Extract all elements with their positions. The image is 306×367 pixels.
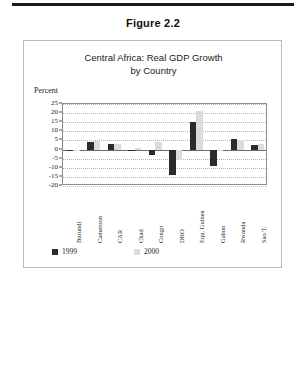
- bar-1999-gabon: [210, 150, 217, 166]
- x-axis-label-burundi: Burundi: [75, 222, 82, 243]
- bar-group: [125, 104, 146, 184]
- y-axis-tick-label: 10: [51, 126, 58, 134]
- bar-2000-burundi: [73, 150, 80, 151]
- top-divider-rule: [12, 3, 294, 6]
- y-axis-tick-label: -5: [52, 154, 58, 162]
- bar-group: [104, 104, 125, 184]
- chart-container: Central Africa: Real GDP Growth by Count…: [23, 40, 282, 268]
- y-axis-tick-mark: [59, 166, 62, 167]
- x-axis-label-congo: Congo: [157, 226, 164, 243]
- legend-swatch-icon: [52, 249, 58, 255]
- bar-2000-chad: [135, 148, 142, 150]
- x-axis-label-dro: DRO: [178, 229, 185, 243]
- x-axis-label-sao-t: Sao T.: [260, 227, 267, 243]
- legend-swatch-icon: [134, 249, 140, 255]
- bar-2000-sao-t: [258, 144, 265, 149]
- bar-2000-dro: [176, 150, 183, 161]
- bar-2000-rwanda: [237, 140, 244, 150]
- y-axis-tick-label: 5: [55, 135, 59, 143]
- y-axis-tick-label: -10: [49, 163, 58, 171]
- bar-2000-cameroon: [94, 141, 101, 149]
- y-axis-tick-label: 25: [51, 99, 58, 107]
- figure-caption: Figure 2.2: [0, 17, 306, 29]
- y-axis-tick-mark: [59, 121, 62, 122]
- x-axis-category-labels: BurundiCameroonCARChadCongoDROEqu. Guine…: [62, 187, 267, 249]
- x-axis-label-chad: Chad: [137, 229, 144, 243]
- bar-group: [84, 104, 105, 184]
- y-axis-tick-mark: [59, 148, 62, 149]
- y-axis-tick-mark: [59, 185, 62, 186]
- bar-1999-congo: [149, 150, 156, 155]
- legend-item-2000[interactable]: 2000: [134, 247, 159, 256]
- y-axis-tick-label: 0: [55, 145, 59, 153]
- bar-group: [63, 104, 84, 184]
- x-axis-label-equ-guinea: Equ. Guinea: [198, 211, 205, 244]
- y-axis-tick-label: 15: [51, 117, 58, 125]
- bar-1999-chad: [128, 150, 135, 151]
- bar-group: [186, 104, 207, 184]
- plot-area: [62, 103, 267, 185]
- y-axis-tick-mark: [59, 130, 62, 131]
- y-axis-tick-label: -20: [49, 181, 58, 189]
- bar-group: [166, 104, 187, 184]
- bar-2000-equ-guinea: [196, 111, 203, 149]
- x-axis-label-cameroon: Cameroon: [96, 216, 103, 243]
- bar-group: [207, 104, 228, 184]
- chart-title: Central Africa: Real GDP Growth by Count…: [34, 51, 273, 77]
- y-axis-unit-label: Percent: [34, 86, 58, 95]
- y-axis-tick-label: -15: [49, 172, 58, 180]
- y-axis-tick-mark: [59, 139, 62, 140]
- bar-2000-car: [114, 144, 121, 149]
- legend-label: 1999: [62, 247, 77, 256]
- bar-group: [145, 104, 166, 184]
- y-axis-tick-mark: [59, 175, 62, 176]
- chart-legend: 19992000: [52, 247, 252, 261]
- bar-group: [248, 104, 269, 184]
- y-axis-tick-mark: [59, 157, 62, 158]
- x-axis-label-car: CAR: [116, 230, 123, 243]
- legend-label: 2000: [144, 247, 159, 256]
- y-axis-tick-mark: [59, 112, 62, 113]
- bar-2000-congo: [155, 142, 162, 149]
- y-axis-tick-mark: [59, 103, 62, 104]
- x-axis-label-gabon: Gabon: [219, 226, 226, 243]
- chart-title-line-2: by Country: [34, 64, 273, 77]
- chart-title-line-1: Central Africa: Real GDP Growth: [34, 51, 273, 64]
- legend-item-1999[interactable]: 1999: [52, 247, 77, 256]
- bar-2000-gabon: [217, 150, 224, 152]
- y-axis-tick-label: 20: [51, 108, 58, 116]
- plot-wrapper: 2520151050-5-10-15-20: [62, 103, 267, 185]
- x-axis-label-rwanda: Rwanda: [239, 222, 246, 243]
- bar-group: [227, 104, 248, 184]
